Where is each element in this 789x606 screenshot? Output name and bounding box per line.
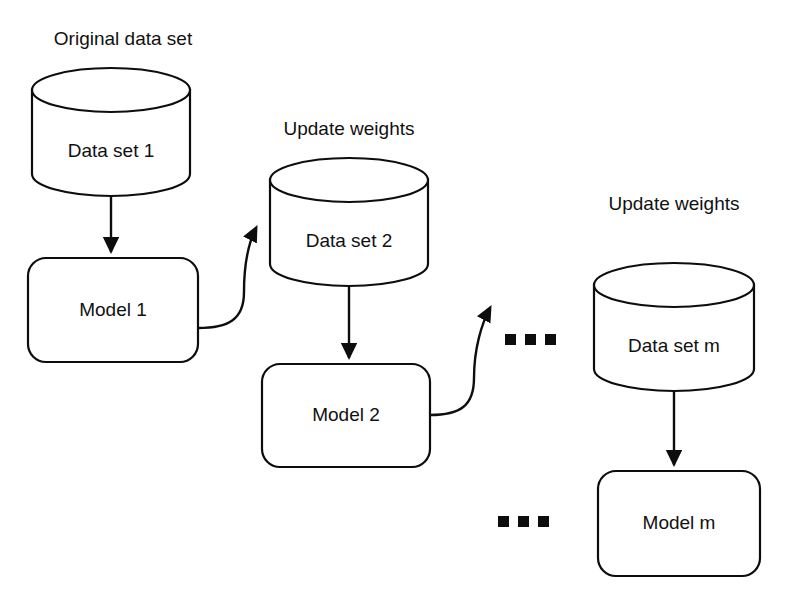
model-1-label: Model 1 bbox=[79, 299, 147, 320]
ellipsis-middle-dot-2 bbox=[525, 334, 536, 345]
boosting-pipeline-diagram: Original data set Update weights Update … bbox=[0, 0, 789, 606]
model-m-label: Model m bbox=[643, 512, 716, 533]
model-2-node[interactable]: Model 2 bbox=[262, 364, 430, 467]
data-set-1-label: Data set 1 bbox=[68, 140, 155, 161]
ellipsis-middle-dot-1 bbox=[505, 334, 516, 345]
data-set-2-label: Data set 2 bbox=[306, 230, 393, 251]
data-set-2-cylinder[interactable]: Data set 2 bbox=[270, 158, 428, 286]
diagram-canvas: Original data set Update weights Update … bbox=[0, 0, 789, 606]
data-set-1-cylinder-top bbox=[32, 68, 190, 112]
ellipsis-lower-dot-1 bbox=[498, 516, 509, 527]
model-m-node[interactable]: Model m bbox=[598, 471, 760, 576]
data-set-m-label: Data set m bbox=[628, 335, 720, 356]
data-set-1-cylinder[interactable]: Data set 1 bbox=[32, 68, 190, 196]
ellipsis-middle-dot-3 bbox=[545, 334, 556, 345]
data-set-m-cylinder[interactable]: Data set m bbox=[594, 263, 754, 391]
model-2-label: Model 2 bbox=[312, 404, 380, 425]
data-set-m-cylinder-top bbox=[594, 263, 754, 307]
model-1-node[interactable]: Model 1 bbox=[28, 258, 198, 362]
data-set-2-cylinder-top bbox=[270, 158, 428, 202]
curve-model2-to-ellipsis bbox=[430, 308, 490, 415]
caption-update-weights-1: Update weights bbox=[284, 118, 415, 139]
ellipsis-lower-dot-3 bbox=[538, 516, 549, 527]
ellipsis-lower bbox=[498, 516, 549, 527]
ellipsis-middle bbox=[505, 334, 556, 345]
caption-original-data-set: Original data set bbox=[54, 28, 193, 49]
curve-model1-to-dataset2 bbox=[198, 228, 256, 328]
ellipsis-lower-dot-2 bbox=[518, 516, 529, 527]
caption-update-weights-2: Update weights bbox=[609, 193, 740, 214]
